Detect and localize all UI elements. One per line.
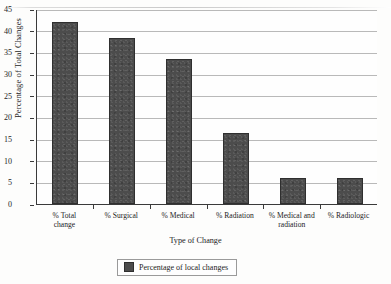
x-axis-tick-mark [263, 205, 264, 209]
x-axis-tick-label: % Totalchange [36, 211, 93, 230]
x-axis-tick-label: % Medical andradiation [263, 211, 320, 230]
x-axis-tick-label: % Radiologic [320, 211, 377, 220]
y-axis-title: Percentage of Total Changes [13, 0, 23, 138]
bar [166, 59, 192, 204]
gridline [37, 96, 377, 97]
y-axis-tick-label: 5 [0, 178, 12, 187]
x-axis-tick-mark [320, 205, 321, 209]
x-axis-tick-label-line: % Radiologic [320, 211, 377, 220]
page-rule-divider [0, 7, 391, 8]
y-axis-tick-mark [30, 161, 34, 162]
y-axis-tick-mark [30, 140, 34, 141]
gridline [37, 75, 377, 76]
gridline [37, 183, 377, 184]
y-axis-tick-label: 40 [0, 27, 12, 36]
x-axis-title: Type of Change [0, 236, 391, 245]
y-axis-tick-mark [30, 53, 34, 54]
x-axis-tick-label-line: radiation [263, 220, 320, 229]
x-axis-tick-mark [93, 205, 94, 209]
y-axis-tick-mark [30, 183, 34, 184]
gridline [37, 140, 377, 141]
x-axis-tick-label-line: % Total [36, 211, 93, 220]
gridline [37, 161, 377, 162]
y-axis-tick-label: 45 [0, 5, 12, 14]
legend-swatch-icon [124, 262, 134, 272]
bar [280, 178, 306, 204]
x-axis-tick-mark [150, 205, 151, 209]
y-axis-tick-label: 15 [0, 135, 12, 144]
y-axis-tick-label: 35 [0, 48, 12, 57]
x-axis-tick-label: % Surgical [93, 211, 150, 220]
bar [52, 22, 78, 204]
legend-label: Percentage of local changes [139, 263, 228, 272]
y-axis-tick-mark [30, 205, 34, 206]
y-axis-tick-label: 25 [0, 92, 12, 101]
x-axis-tick-mark [207, 205, 208, 209]
y-axis-tick-mark [30, 75, 34, 76]
y-axis-tick-label: 10 [0, 157, 12, 166]
y-axis-tick-mark [30, 31, 34, 32]
y-axis-tick-label: 20 [0, 113, 12, 122]
gridline [37, 10, 377, 11]
gridline [37, 31, 377, 32]
y-axis-tick-label: 0 [0, 200, 12, 209]
bar [109, 38, 135, 204]
x-axis-tick-label: % Radiation [207, 211, 264, 220]
y-axis-tick-mark [30, 96, 34, 97]
bar [337, 178, 363, 204]
x-axis-tick-label: % Medical [150, 211, 207, 220]
x-axis-tick-label-line: % Radiation [207, 211, 264, 220]
chart-legend: Percentage of local changes [117, 259, 237, 276]
x-axis-tick-label-line: change [36, 220, 93, 229]
y-axis-tick-mark [30, 118, 34, 119]
gridline [37, 53, 377, 54]
x-axis-tick-label-line: % Medical [150, 211, 207, 220]
bar [223, 133, 249, 205]
cropped-caption-text [133, 0, 253, 4]
y-axis-tick-mark [30, 10, 34, 11]
y-axis-tick-label: 30 [0, 70, 12, 79]
plot-area [36, 10, 377, 205]
bar-chart-figure: Percentage of Total Changes 051015202530… [0, 0, 391, 284]
x-axis-tick-label-line: % Medical and [263, 211, 320, 220]
x-axis-tick-label-line: % Surgical [93, 211, 150, 220]
gridline [37, 118, 377, 119]
